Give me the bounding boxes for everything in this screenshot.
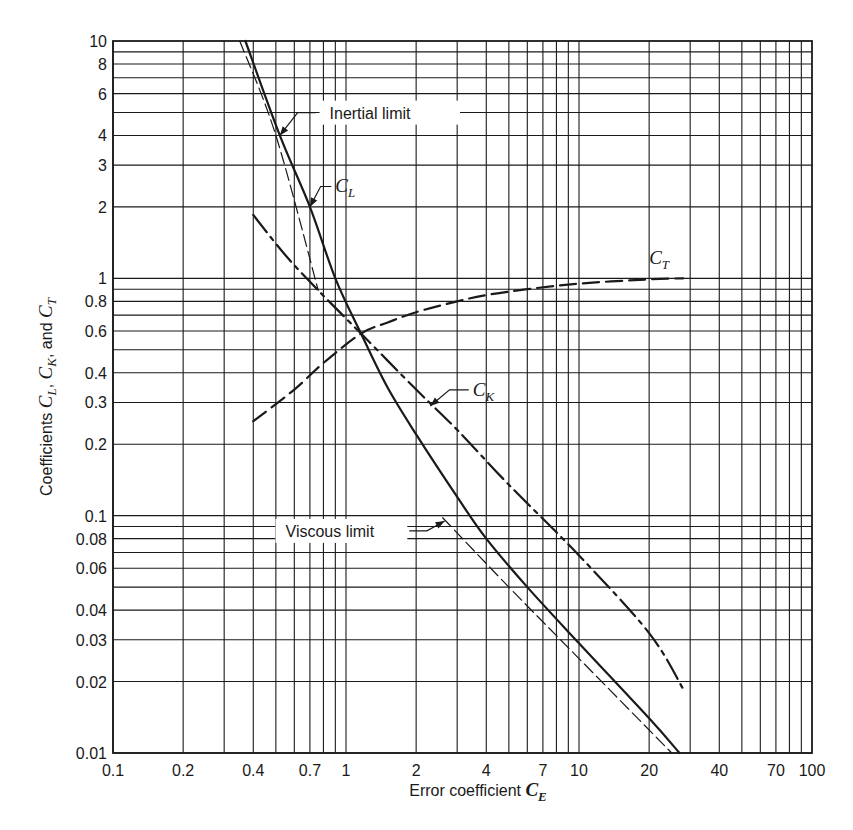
y-tick-label: 0.02 xyxy=(76,674,107,691)
y-tick-label: 10 xyxy=(89,33,107,50)
x-tick-label: 1 xyxy=(342,762,351,779)
curve-inertial-limit xyxy=(240,41,318,290)
x-tick-label: 0.4 xyxy=(242,762,264,779)
x-tick-label: 70 xyxy=(767,762,785,779)
y-tick-label: 0.04 xyxy=(76,602,107,619)
annotation-label: Inertial limit xyxy=(330,105,411,122)
log-log-chart: Inertial limitCLCTCKViscous limit 0.10.2… xyxy=(0,0,853,830)
annotations: Inertial limitCLCTCKViscous limit xyxy=(280,105,670,540)
y-tick-label: 0.01 xyxy=(76,745,107,762)
y-tick-label: 0.4 xyxy=(85,365,107,382)
label-masks xyxy=(276,101,460,543)
y-tick-label: 6 xyxy=(98,86,107,103)
x-tick-label: 4 xyxy=(482,762,491,779)
y-tick-label: 0.8 xyxy=(85,293,107,310)
plot-frame xyxy=(113,41,812,753)
y-axis-label: Coefficients CL, CK, and CT xyxy=(35,297,59,496)
annotation-label: Viscous limit xyxy=(286,523,375,540)
x-tick-label: 100 xyxy=(799,762,826,779)
y-tick-label: 0.03 xyxy=(76,632,107,649)
x-tick-label: 0.7 xyxy=(299,762,321,779)
y-tick-label: 0.1 xyxy=(85,508,107,525)
curve-c-l xyxy=(245,41,679,753)
arrowhead-icon xyxy=(280,126,288,135)
arrowhead-icon xyxy=(435,521,445,528)
curve-label: CT xyxy=(649,247,670,272)
curve-viscous-limit xyxy=(443,518,672,753)
grid-lines xyxy=(113,41,812,753)
curve-label: CK xyxy=(473,379,496,404)
arrowhead-icon xyxy=(310,197,317,207)
curve-label: CL xyxy=(335,175,355,200)
y-tick-label: 0.08 xyxy=(76,531,107,548)
x-tick-label: 2 xyxy=(412,762,421,779)
x-tick-label: 20 xyxy=(640,762,658,779)
x-tick-label: 0.1 xyxy=(102,762,124,779)
x-tick-label: 10 xyxy=(570,762,588,779)
x-axis-ticks: 0.10.20.40.7124710204070100 xyxy=(102,762,826,779)
y-tick-label: 0.3 xyxy=(85,394,107,411)
x-tick-label: 7 xyxy=(538,762,547,779)
y-tick-label: 2 xyxy=(98,199,107,216)
x-tick-label: 40 xyxy=(710,762,728,779)
y-axis-ticks: 0.010.020.030.040.060.080.10.20.30.40.60… xyxy=(76,33,107,762)
y-tick-label: 0.6 xyxy=(85,323,107,340)
y-tick-label: 4 xyxy=(98,127,107,144)
y-tick-label: 8 xyxy=(98,56,107,73)
y-tick-label: 1 xyxy=(98,270,107,287)
curves xyxy=(240,41,683,753)
x-tick-label: 0.2 xyxy=(172,762,194,779)
x-axis-label: Error coefficient CE xyxy=(409,779,547,804)
y-tick-label: 0.06 xyxy=(76,560,107,577)
y-tick-label: 3 xyxy=(98,157,107,174)
y-tick-label: 0.2 xyxy=(85,436,107,453)
curve-c-k xyxy=(253,215,683,689)
